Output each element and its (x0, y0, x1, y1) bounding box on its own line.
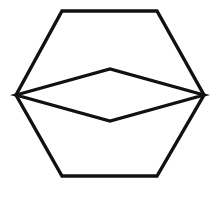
rhombus-shape (16, 69, 204, 121)
geometry-figure (0, 0, 220, 198)
hexagon-shape (16, 11, 204, 176)
figure-canvas (0, 0, 220, 198)
